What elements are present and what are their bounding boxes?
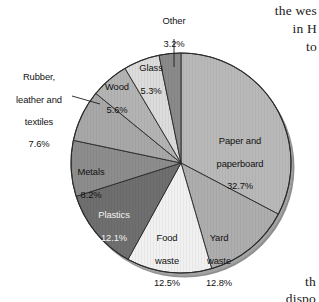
page-text-right-column: the wes in H to [275, 2, 317, 56]
slice-label-line: waste [192, 255, 246, 266]
slice-label-line: leather and [3, 94, 75, 105]
slice-label-paper-and-paperboard: Paper and paperboard 32.7% [196, 124, 284, 202]
slice-label-percent: 12.8% [192, 277, 246, 288]
slice-label-yard-waste: Yard waste 12.8% [192, 221, 246, 299]
slice-label-line: waste [140, 255, 194, 266]
slice-label-line: Rubber, [3, 71, 75, 82]
slice-label-food-waste: Food waste 12.5% [140, 221, 194, 299]
slice-label-percent: 5.3% [128, 85, 174, 96]
slice-label-line: Other [148, 15, 200, 26]
page-text-line: th [286, 273, 316, 290]
slice-label-percent: 12.5% [140, 277, 194, 288]
slice-label-line: textiles [3, 116, 75, 127]
page-text-line: dispo [286, 290, 316, 302]
slice-label-line: Yard [192, 232, 246, 243]
slice-label-other: Other 3.2% [148, 4, 200, 60]
slice-label-line: paperboard [196, 158, 284, 169]
page-text-line: in H [275, 20, 317, 38]
slice-label-metals: Metals 8.2% [62, 155, 120, 211]
slice-label-line: Food [140, 232, 194, 243]
slice-label-percent: 12.1% [83, 232, 145, 243]
slice-label-percent: 7.6% [3, 138, 75, 149]
slice-label-line: Paper and [196, 135, 284, 146]
slice-label-line: Glass [128, 62, 174, 73]
slice-label-rubber-leather-textiles: Rubber, leather and textiles 7.6% [3, 60, 75, 161]
page-text-line: to [275, 38, 317, 56]
slice-label-percent: 32.7% [196, 180, 284, 191]
slice-label-line: Metals [62, 166, 120, 177]
page-text-bottom-right: th dispo [286, 273, 316, 302]
page-text-line: the wes [275, 2, 317, 20]
slice-label-percent: 8.2% [62, 189, 120, 200]
slice-label-percent: 3.2% [148, 38, 200, 49]
